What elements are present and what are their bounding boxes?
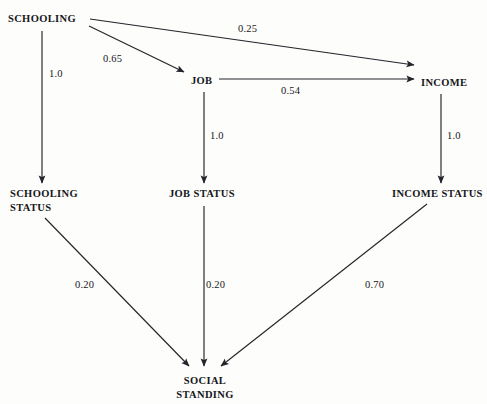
edge-schooling-status-to-social-standing: 0.20: [45, 218, 189, 366]
path-diagram-canvas: 0.25 0.65 0.54 1.0 1.0 1.0: [0, 0, 487, 404]
edge-label-schooling-to-schooling-status: 1.0: [49, 68, 63, 79]
edge-label-income-status-to-social-standing: 0.70: [365, 279, 384, 290]
edge-label-schooling-status-to-social-standing: 0.20: [75, 279, 94, 290]
node-schooling-status-line2: STATUS: [10, 202, 51, 213]
edge-schooling-to-schooling-status: 1.0: [42, 31, 63, 183]
edge-label-job-to-income: 0.54: [281, 85, 301, 96]
edge-income-to-income-status: 1.0: [441, 94, 461, 183]
edge-job-to-job-status: 1.0: [204, 92, 224, 183]
node-income-status: INCOME STATUS: [392, 188, 483, 199]
edge-line-schooling-to-job: [89, 26, 184, 72]
node-income: INCOME: [421, 77, 467, 88]
node-social-standing-line1: SOCIAL: [184, 375, 226, 386]
node-schooling: SCHOOLING: [8, 13, 76, 24]
node-social-standing-line2: STANDING: [176, 389, 233, 400]
node-job-status: JOB STATUS: [169, 188, 235, 199]
node-schooling-status-line1: SCHOOLING: [10, 188, 78, 199]
edge-label-schooling-to-job: 0.65: [103, 53, 122, 64]
edge-line-income-status-to-social-standing: [221, 204, 427, 366]
node-schooling-status: SCHOOLING STATUS: [10, 188, 78, 213]
edge-job-status-to-social-standing: 0.20: [204, 206, 225, 366]
edge-job-to-income: 0.54: [219, 79, 414, 96]
edge-label-income-to-income-status: 1.0: [447, 130, 461, 141]
edge-schooling-to-job: 0.65: [89, 26, 184, 72]
edge-line-schooling-status-to-social-standing: [45, 218, 189, 366]
node-social-standing: SOCIAL STANDING: [176, 375, 233, 400]
edge-label-job-status-to-social-standing: 0.20: [206, 279, 225, 290]
edge-schooling-to-income: 0.25: [90, 19, 414, 65]
edge-label-job-to-job-status: 1.0: [210, 130, 224, 141]
path-diagram-svg: 0.25 0.65 0.54 1.0 1.0 1.0: [0, 0, 487, 404]
node-job: JOB: [191, 75, 212, 86]
edge-label-schooling-to-income: 0.25: [238, 23, 257, 34]
edge-income-status-to-social-standing: 0.70: [221, 204, 427, 366]
